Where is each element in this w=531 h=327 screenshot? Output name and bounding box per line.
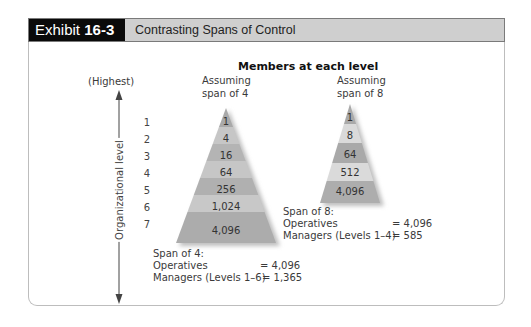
span8-summary-heading: Span of 8: xyxy=(283,206,334,218)
span4-value: 4 xyxy=(223,133,229,144)
span4-operatives-value: = 4,096 xyxy=(260,260,300,272)
span8-value: 512 xyxy=(340,167,359,178)
span4-value: 256 xyxy=(216,184,235,195)
span4-managers-value: = 1,365 xyxy=(262,272,302,284)
span4-value: 16 xyxy=(220,150,233,161)
span4-value: 1,024 xyxy=(212,201,241,212)
span8-managers-label: Managers (Levels 1–4) xyxy=(283,230,396,242)
span8-value: 4,096 xyxy=(336,186,365,197)
span8-value: 64 xyxy=(344,149,357,160)
span4-value: 1 xyxy=(223,116,229,127)
span8-managers-value: = 585 xyxy=(392,230,423,242)
span8-operatives-label: Operatives xyxy=(283,218,338,230)
span8-value: 1 xyxy=(347,112,353,123)
span4-managers-label: Managers (Levels 1–6) xyxy=(153,272,266,284)
span4-summary-heading: Span of 4: xyxy=(153,248,204,260)
span4-value: 4,096 xyxy=(212,225,241,236)
span8-value: 8 xyxy=(347,130,353,141)
span8-operatives-value: = 4,096 xyxy=(392,218,432,230)
span4-operatives-label: Operatives xyxy=(153,260,208,272)
span4-value: 64 xyxy=(220,167,233,178)
